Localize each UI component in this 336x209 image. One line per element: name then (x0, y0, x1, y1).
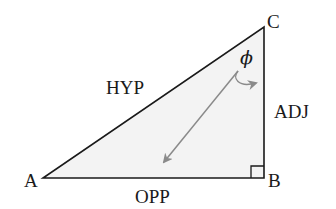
right-triangle-diagram: A B C ϕ HYP ADJ OPP (0, 0, 336, 209)
adjacent-label: ADJ (274, 101, 309, 122)
opposite-label: OPP (135, 186, 170, 207)
vertex-label-c: C (267, 11, 280, 32)
vertex-label-b: B (268, 170, 281, 191)
hypotenuse-label: HYP (106, 77, 144, 98)
vertex-label-a: A (24, 170, 38, 191)
angle-phi-label: ϕ (240, 46, 253, 68)
triangle-shape (43, 27, 264, 178)
